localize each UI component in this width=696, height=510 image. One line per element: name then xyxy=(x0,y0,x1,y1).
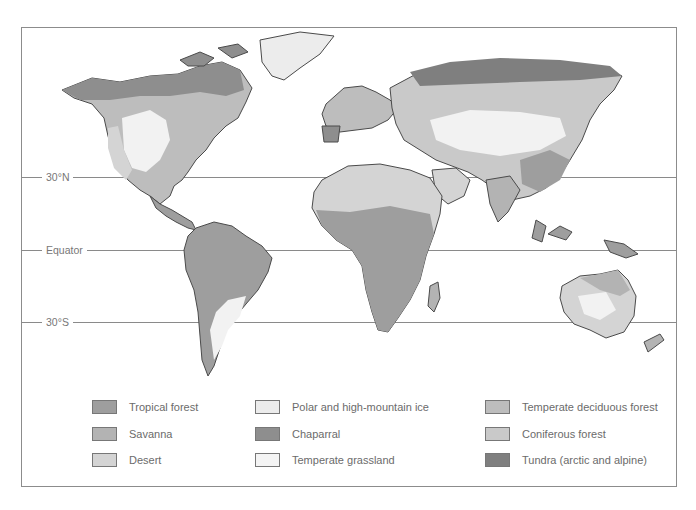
swatch-chaparral xyxy=(255,427,280,441)
swatch-savanna xyxy=(92,427,117,441)
legend-label: Temperate deciduous forest xyxy=(522,401,658,413)
legend-item-tundra: Tundra (arctic and alpine) xyxy=(485,452,647,468)
legend-label: Desert xyxy=(129,454,161,466)
legend-item-temperate-deciduous-forest: Temperate deciduous forest xyxy=(485,399,658,415)
legend-label: Savanna xyxy=(129,428,172,440)
lat-label-30n: 30°N xyxy=(42,171,73,183)
central-america xyxy=(150,196,196,230)
swatch-temperate-grassland xyxy=(255,453,280,467)
legend-item-chaparral: Chaparral xyxy=(255,426,340,442)
swatch-tundra xyxy=(485,453,510,467)
legend-label: Polar and high-mountain ice xyxy=(292,401,429,413)
legend-item-savanna: Savanna xyxy=(92,426,172,442)
legend-label: Tundra (arctic and alpine) xyxy=(522,454,647,466)
lat-label-30s: 30°S xyxy=(42,316,73,328)
lat-label-equator: Equator xyxy=(42,244,87,256)
legend-item-tropical-forest: Tropical forest xyxy=(92,399,198,415)
legend-label: Chaparral xyxy=(292,428,340,440)
europe xyxy=(322,86,398,132)
swatch-polar-ice xyxy=(255,400,280,414)
legend-label: Tropical forest xyxy=(129,401,198,413)
legend-label: Temperate grassland xyxy=(292,454,395,466)
legend-item-polar-ice: Polar and high-mountain ice xyxy=(255,399,429,415)
swatch-coniferous-forest xyxy=(485,427,510,441)
legend-item-temperate-grassland: Temperate grassland xyxy=(255,452,395,468)
swatch-temperate-deciduous-forest xyxy=(485,400,510,414)
greenland xyxy=(260,32,334,80)
legend-item-coniferous-forest: Coniferous forest xyxy=(485,426,606,442)
legend-item-desert: Desert xyxy=(92,452,161,468)
south-america xyxy=(184,222,272,376)
swatch-desert xyxy=(92,453,117,467)
swatch-tropical-forest xyxy=(92,400,117,414)
legend-label: Coniferous forest xyxy=(522,428,606,440)
